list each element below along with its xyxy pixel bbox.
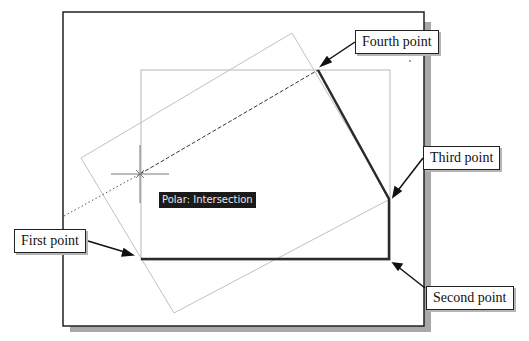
callout-second-point: Second point [426,286,514,310]
frame-shadow-bottom [70,326,431,332]
callout-third-point: Third point [423,146,500,170]
drawing-frame [63,12,424,326]
stray-dot [409,60,411,62]
callout-fourth-point: Fourth point [355,30,439,54]
snap-tooltip: Polar: Intersection [159,192,256,208]
callout-first-point: First point [14,229,86,253]
